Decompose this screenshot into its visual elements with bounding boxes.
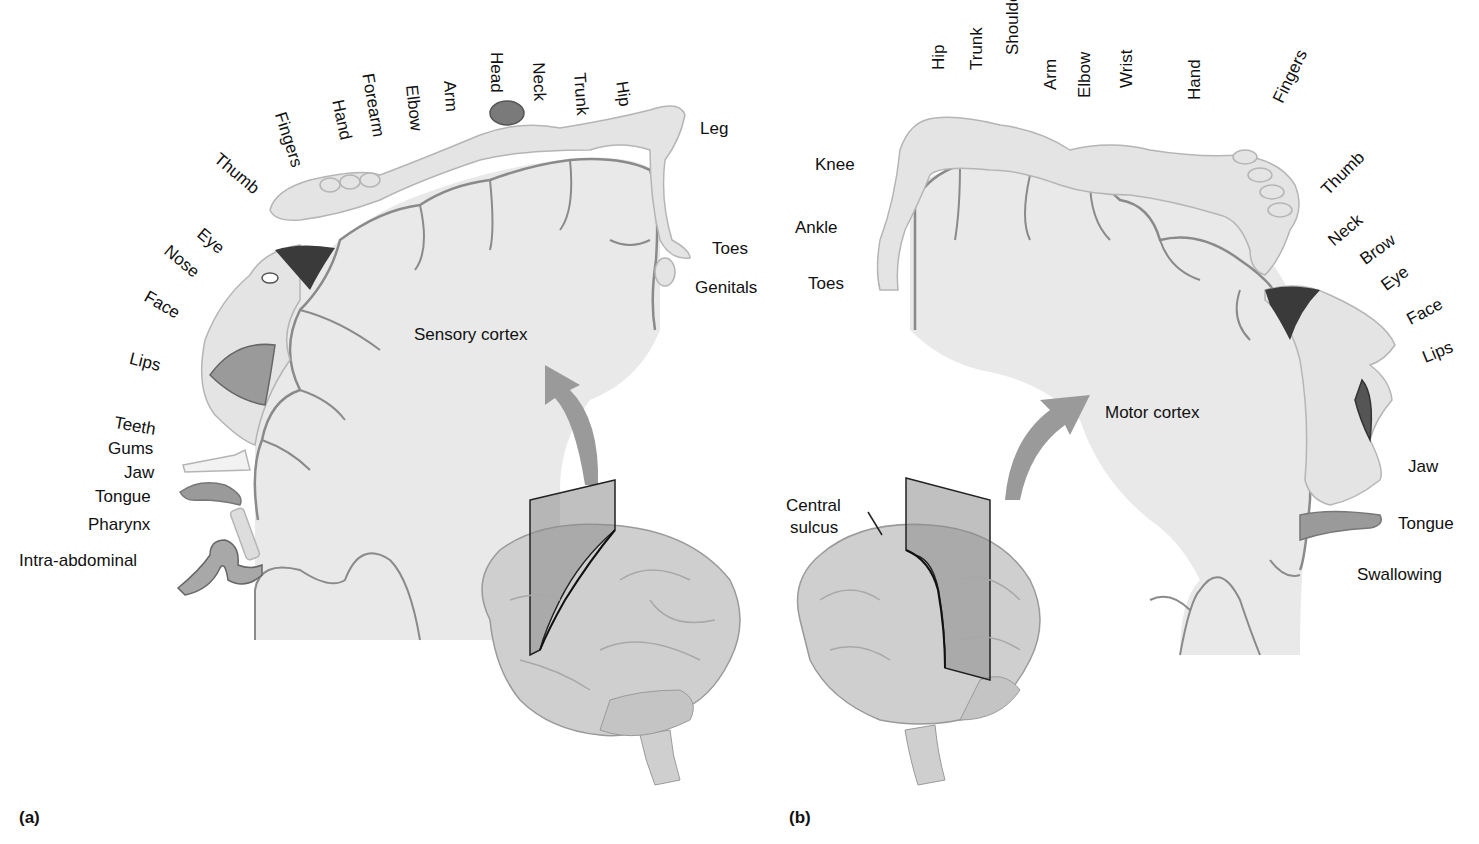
- sensory-label-intra-abdominal: Intra-abdominal: [19, 552, 137, 569]
- sensory-label-neck: Neck: [530, 62, 548, 101]
- sensory-label-gums: Gums: [108, 440, 153, 457]
- motor-label-toes: Toes: [808, 275, 844, 292]
- motor-label-ankle: Ankle: [795, 219, 838, 236]
- central-sulcus-label-line2: sulcus: [790, 518, 838, 538]
- motor-label-jaw: Jaw: [1408, 458, 1438, 475]
- sensory-label-pharynx: Pharynx: [88, 516, 150, 533]
- sensory-label-elbow: Elbow: [403, 84, 425, 132]
- homunculus-figure: ThumbFingersHandForearmElbowArmHeadNeckT…: [0, 0, 1479, 844]
- sensory-label-genitals: Genitals: [695, 279, 757, 296]
- sensory-label-jaw: Jaw: [124, 464, 154, 481]
- motor-label-hip: Hip: [930, 44, 947, 70]
- motor-label-tongue: Tongue: [1398, 515, 1454, 532]
- figure-artwork: [0, 0, 1479, 844]
- motor-label-knee: Knee: [815, 156, 855, 173]
- motor-label-hand: Hand: [1186, 59, 1203, 100]
- motor-label-swallowing: Swallowing: [1357, 566, 1442, 583]
- sensory-label-trunk: Trunk: [571, 72, 591, 116]
- sensory-label-arm: Arm: [441, 80, 460, 112]
- motor-label-trunk: Trunk: [968, 27, 985, 70]
- central-sulcus-label-line1: Central: [786, 496, 841, 516]
- motor-label-shoulder: Shoulder: [1004, 0, 1021, 55]
- motor-arrow: [1005, 395, 1090, 500]
- sensory-label-toes: Toes: [712, 240, 748, 257]
- sensory-label-head: Head: [488, 52, 505, 93]
- sensory-cortex-title: Sensory cortex: [414, 325, 527, 345]
- motor-label-elbow: Elbow: [1076, 52, 1093, 98]
- panel-b-tag: (b): [789, 808, 811, 828]
- sensory-label-leg: Leg: [700, 120, 728, 137]
- sensory-label-tongue: Tongue: [95, 488, 151, 505]
- sensory-label-hip: Hip: [613, 80, 633, 108]
- motor-cortex-title: Motor cortex: [1105, 403, 1199, 423]
- motor-label-arm: Arm: [1042, 59, 1059, 90]
- panel-a-tag: (a): [19, 808, 40, 828]
- motor-label-wrist: Wrist: [1118, 50, 1135, 88]
